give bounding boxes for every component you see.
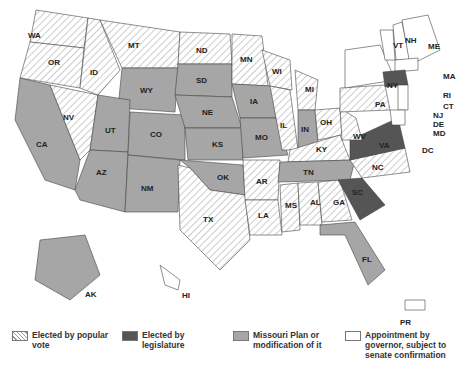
label-or: OR: [48, 58, 60, 67]
label-tx: TX: [203, 215, 214, 224]
label-vt: VT: [393, 41, 403, 50]
label-ok: OK: [217, 173, 229, 182]
label-nv: NV: [63, 113, 75, 122]
label-la: LA: [258, 211, 269, 220]
label-wa: WA: [28, 31, 41, 40]
label-fl: FL: [362, 255, 372, 264]
label-ky: KY: [316, 145, 328, 154]
label-al: AL: [310, 198, 321, 207]
label-ca: CA: [36, 140, 48, 149]
label-mo: MO: [255, 133, 268, 142]
label-in: IN: [301, 125, 309, 134]
label-mn: MN: [240, 55, 253, 64]
label-ms: MS: [285, 201, 298, 210]
label-hi: HI: [182, 291, 190, 300]
label-oh: OH: [320, 118, 332, 127]
label-me: ME: [428, 42, 441, 51]
label-va: VA: [379, 141, 390, 150]
label-nd: ND: [196, 46, 208, 55]
label-il: IL: [280, 121, 287, 130]
label-ct: CT: [443, 102, 454, 111]
label-mt: MT: [128, 41, 140, 50]
label-mi: MI: [305, 85, 314, 94]
label-co: CO: [150, 130, 162, 139]
label-az: AZ: [96, 168, 107, 177]
label-ar: AR: [256, 177, 268, 186]
label-nm: NM: [141, 184, 154, 193]
label-pa: PA: [375, 100, 386, 109]
label-id: ID: [90, 68, 98, 77]
label-nh: NH: [405, 36, 417, 45]
label-sd: SD: [196, 76, 207, 85]
label-ny: NY: [387, 81, 399, 90]
legend-popular-vote: Elected by popular vote: [12, 330, 112, 350]
legend-missouri-plan: Missouri Plan or modification of it: [233, 330, 343, 350]
label-ma: MA: [443, 72, 456, 81]
label-ks: KS: [212, 140, 224, 149]
label-sc: SC: [352, 188, 363, 197]
label-ut: UT: [105, 126, 116, 135]
label-ga: GA: [333, 198, 345, 207]
label-wy: WY: [140, 86, 154, 95]
label-md: MD: [433, 129, 446, 138]
label-ia: IA: [250, 97, 258, 106]
legend-legislature: Elected by legislature: [122, 330, 212, 350]
label-wi: WI: [272, 67, 282, 76]
label-dc: DC: [422, 146, 434, 155]
label-ak: AK: [85, 290, 97, 299]
state-labels: WA OR CA NV ID MT WY UT AZ CO NM ND SD N…: [0, 0, 465, 330]
label-nc: NC: [372, 163, 384, 172]
legend-appointment: Appointment by governor, subject to sena…: [345, 330, 463, 360]
label-nj: NJ: [433, 111, 443, 120]
label-tn: TN: [303, 168, 314, 177]
label-wv: WV: [353, 132, 367, 141]
label-pr: PR: [400, 318, 411, 327]
label-ri: RI: [443, 91, 451, 100]
label-de: DE: [433, 120, 445, 129]
label-ne: NE: [202, 108, 214, 117]
